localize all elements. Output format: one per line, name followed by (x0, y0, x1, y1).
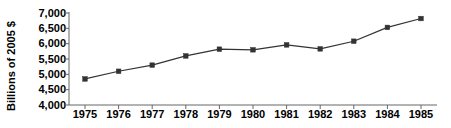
x-axis-tick-label: 1985 (401, 108, 441, 121)
y-axis-tick-label: 5,000 (22, 69, 66, 80)
y-axis-tick-labels: 7,0006,5006,0005,5005,0004,5004,000 (20, 0, 66, 128)
y-axis-tick-label: 4,000 (22, 100, 66, 111)
data-point-marker[interactable] (150, 63, 155, 68)
y-axis-tick-label: 4,500 (22, 84, 66, 95)
data-point-marker[interactable] (251, 48, 256, 53)
y-axis-tick-label: 5,500 (22, 54, 66, 65)
x-axis-tick-labels: 1975197619771978197919801981198219831984… (69, 108, 437, 124)
data-point-marker[interactable] (83, 77, 88, 82)
data-point-marker[interactable] (318, 47, 323, 52)
plot-svg (69, 13, 437, 105)
y-axis-tick-label: 6,000 (22, 38, 66, 49)
data-point-marker[interactable] (284, 43, 289, 48)
data-point-marker[interactable] (116, 69, 121, 74)
y-axis-tick-label: 6,500 (22, 23, 66, 34)
data-point-marker[interactable] (217, 47, 222, 52)
data-point-marker[interactable] (184, 54, 189, 59)
y-axis-title: Billions of 2005 $ (0, 11, 22, 121)
plot-area (69, 13, 437, 105)
line-chart-figure: Billions of 2005 $ 7,0006,5006,0005,5005… (0, 0, 451, 128)
data-point-marker[interactable] (419, 16, 424, 21)
y-axis-tick-label: 7,000 (22, 8, 66, 19)
data-point-marker[interactable] (352, 39, 357, 44)
data-point-marker[interactable] (385, 25, 390, 30)
